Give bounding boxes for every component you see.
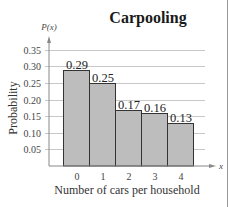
- bar-3: [142, 114, 168, 167]
- bar-4: [168, 124, 194, 167]
- y-axis-symbol: P(x): [40, 22, 57, 32]
- bar-value-label: 0.25: [92, 71, 114, 85]
- x-axis-symbol: x: [218, 161, 223, 171]
- x-tick-label: 1: [101, 171, 106, 182]
- bar-value-label: 0.17: [118, 98, 140, 112]
- x-tick-label: 4: [179, 171, 184, 182]
- y-axis-arrow-icon: [47, 36, 51, 43]
- bar-1: [90, 84, 116, 167]
- y-tick-label: 0.20: [24, 95, 42, 106]
- x-tick-label: 0: [75, 171, 80, 182]
- bar-value-label: 0.16: [144, 101, 166, 115]
- bar-value-label: 0.29: [66, 58, 88, 72]
- y-tick-label: 0.35: [24, 45, 42, 56]
- y-tick-label: 0.30: [24, 61, 42, 72]
- x-axis-arrow-icon: [209, 164, 216, 168]
- bar-2: [116, 111, 142, 167]
- bar-chart: 0.050.100.150.200.250.300.35 01234 0.290…: [0, 0, 234, 207]
- y-tick-labels: 0.050.100.150.200.250.300.35: [24, 45, 42, 155]
- chart-title: Carpooling: [109, 9, 186, 27]
- x-axis-label: Number of cars per household: [54, 183, 199, 197]
- x-tick-labels: 01234: [75, 171, 184, 182]
- y-tick-label: 0.05: [24, 144, 42, 155]
- x-tick-label: 3: [153, 171, 158, 182]
- y-axis-label: Probability: [6, 81, 20, 134]
- bar-value-label: 0.13: [170, 111, 192, 125]
- y-tick-label: 0.25: [24, 78, 42, 89]
- x-tick-label: 2: [127, 171, 132, 182]
- y-tick-label: 0.10: [24, 128, 42, 139]
- y-tick-label: 0.15: [24, 111, 42, 122]
- bar-0: [64, 71, 90, 167]
